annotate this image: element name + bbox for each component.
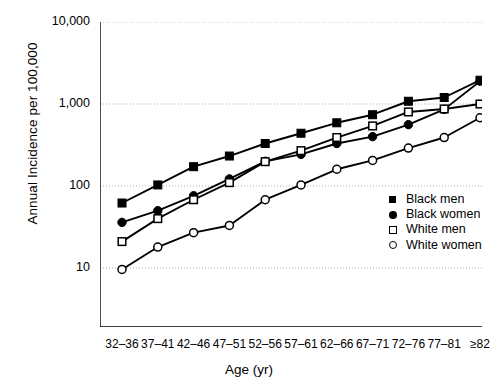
chart-canvas bbox=[100, 22, 482, 327]
plot-area bbox=[100, 22, 482, 327]
chart-legend: Black men Black women White men White wo… bbox=[389, 192, 482, 253]
filled-square-icon bbox=[389, 196, 405, 203]
x-axis-title: Age (yr) bbox=[0, 362, 498, 377]
y-axis-tick-label: 1,000 bbox=[6, 96, 90, 110]
chart-figure: Annual Incidence per 100,000 101001,0001… bbox=[0, 0, 498, 390]
legend-item-black-women: Black women bbox=[389, 207, 482, 222]
legend-label: Black women bbox=[405, 207, 480, 222]
filled-circle-icon bbox=[389, 211, 405, 219]
open-circle-icon bbox=[389, 241, 405, 249]
legend-label: White men bbox=[405, 222, 466, 237]
y-axis-tick-label: 100 bbox=[6, 178, 90, 192]
legend-item-white-women: White women bbox=[389, 238, 482, 253]
legend-item-black-men: Black men bbox=[389, 192, 482, 207]
x-axis-tick-label: ≥82 bbox=[457, 337, 498, 351]
open-square-icon bbox=[389, 226, 405, 234]
y-axis-tick-label: 10,000 bbox=[6, 14, 90, 28]
legend-label: Black men bbox=[405, 192, 464, 207]
y-axis-tick-label: 10 bbox=[6, 260, 90, 274]
legend-label: White women bbox=[405, 238, 482, 253]
y-axis-title: Annual Incidence per 100,000 bbox=[25, 0, 40, 284]
legend-item-white-men: White men bbox=[389, 222, 482, 237]
